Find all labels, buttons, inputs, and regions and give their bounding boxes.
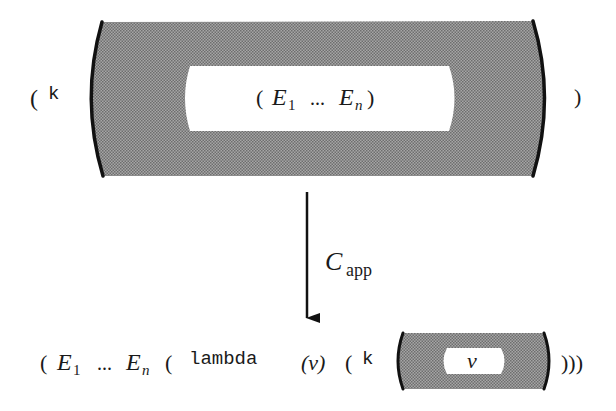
transformation-arrow: C app [307, 192, 372, 318]
hole-open-paren: ( [256, 85, 263, 110]
hole-en-sub: n [355, 97, 363, 113]
bottom-en-var: E [125, 349, 141, 375]
hole-en-var: E [338, 84, 354, 110]
bottom-close-parens: ))) [561, 350, 583, 375]
hole-e1-sub: 1 [288, 97, 296, 113]
body-open-paren: ( [345, 350, 352, 375]
hole-application: ( E 1 ... E n ) [256, 84, 374, 113]
arrow-label-sub: app [346, 260, 372, 280]
top-close-paren: ) [574, 84, 581, 109]
bottom-e1-sub: 1 [73, 362, 81, 378]
bottom-open-paren: ( [40, 350, 47, 375]
bottom-e1-var: E [56, 349, 72, 375]
hole-value-v: v [467, 348, 477, 373]
top-open-paren: ( [30, 85, 38, 111]
hole-e1-var: E [271, 84, 287, 110]
bottom-expression: ( E 1 ... E n ( lambda (v) ( k v ))) [40, 333, 583, 389]
lambda-keyword: lambda [189, 348, 257, 370]
arrow-label-c: C [325, 247, 343, 276]
top-expression: ( k ( E 1 ... E n ) ) [30, 21, 581, 176]
cps-diagram: ( k ( E 1 ... E n ) ) C app ( E 1 ... E … [0, 0, 616, 411]
top-continuation-k: k [48, 83, 59, 105]
bottom-continuation-k: k [362, 348, 373, 370]
bottom-ellipsis: ... [97, 352, 112, 374]
hole-close-paren: ) [367, 85, 374, 110]
lambda-params: (v) [301, 350, 325, 375]
lambda-open-paren: ( [165, 350, 172, 375]
hole-ellipsis: ... [310, 87, 325, 109]
bottom-en-sub: n [142, 362, 150, 378]
